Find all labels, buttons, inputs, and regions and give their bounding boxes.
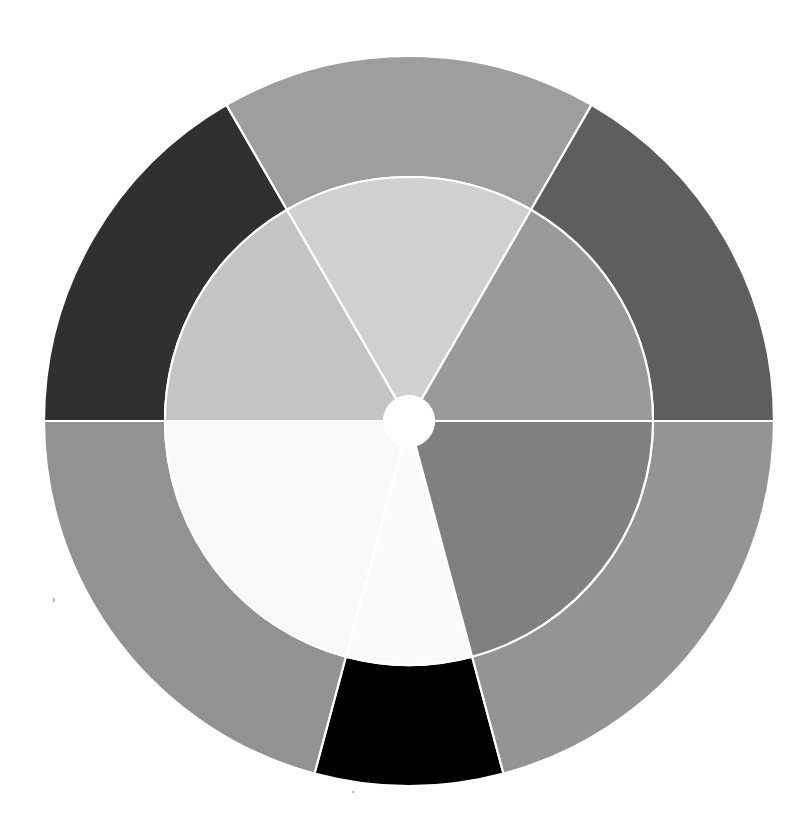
center-hole	[384, 396, 434, 446]
nested-pie-chart	[0, 0, 808, 829]
artifact-speck-0	[53, 598, 55, 602]
pie-slice-outer-0[interactable]	[315, 657, 504, 786]
chart-canvas	[0, 0, 808, 829]
artifact-speck-1	[352, 791, 354, 793]
